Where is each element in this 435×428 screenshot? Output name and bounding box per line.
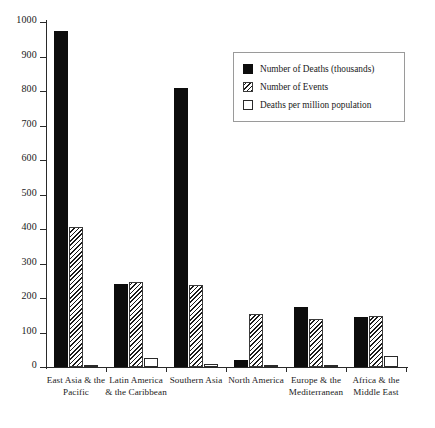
bar xyxy=(234,360,249,367)
y-axis-tick-mark xyxy=(40,367,46,368)
bar xyxy=(144,358,159,367)
y-axis-tick: 500 xyxy=(0,195,46,196)
y-axis-tick-label: 500 xyxy=(21,187,37,198)
bar xyxy=(249,314,264,367)
bar xyxy=(114,284,129,367)
bar xyxy=(84,365,99,367)
bar-group xyxy=(54,22,99,367)
bar xyxy=(69,227,84,367)
bar xyxy=(309,319,324,367)
bar-group xyxy=(174,22,219,367)
x-axis-separator xyxy=(346,367,347,372)
bar xyxy=(264,365,279,367)
x-axis-separator xyxy=(226,367,227,372)
y-axis-tick-label: 600 xyxy=(21,152,37,163)
legend-label: Number of Deaths (thousands) xyxy=(260,64,374,75)
bar xyxy=(354,317,369,367)
y-axis-tick-label: 100 xyxy=(21,325,37,336)
y-axis-tick-label: 400 xyxy=(21,221,37,232)
legend-swatch-icon xyxy=(243,82,253,92)
y-axis-tick: 900 xyxy=(0,57,46,58)
bar xyxy=(54,31,69,367)
category-label-line: & the Caribbean xyxy=(98,387,174,399)
bar xyxy=(189,285,204,367)
y-axis-tick-label: 300 xyxy=(21,256,37,267)
bar xyxy=(294,307,309,367)
y-axis-tick: 200 xyxy=(0,298,46,299)
legend-swatch-icon xyxy=(243,64,253,74)
y-axis-tick-label: 200 xyxy=(21,290,37,301)
y-axis-tick: 400 xyxy=(0,229,46,230)
bar xyxy=(369,316,384,367)
legend-item: Number of Deaths (thousands) xyxy=(243,60,396,78)
y-axis-tick: 700 xyxy=(0,126,46,127)
y-axis-tick: 300 xyxy=(0,264,46,265)
bar-chart: 01002003004005006007008009001000 East As… xyxy=(0,0,435,428)
chart-legend: Number of Deaths (thousands)Number of Ev… xyxy=(233,52,405,122)
x-axis-separator xyxy=(166,367,167,372)
x-axis-separator xyxy=(106,367,107,372)
x-axis-category-label: Africa & theMiddle East xyxy=(338,375,414,398)
bar-group xyxy=(114,22,159,367)
legend-item: Deaths per million population xyxy=(243,96,396,114)
bar xyxy=(129,282,144,367)
y-axis-tick-label: 1000 xyxy=(16,14,37,25)
x-axis-separator xyxy=(406,367,407,372)
y-axis-tick-label: 900 xyxy=(21,49,37,60)
y-axis-tick: 100 xyxy=(0,333,46,334)
x-axis-line xyxy=(41,367,408,368)
y-axis-tick: 600 xyxy=(0,160,46,161)
category-label-line: Middle East xyxy=(338,387,414,399)
category-label-line: Africa & the xyxy=(338,375,414,387)
bar xyxy=(324,365,339,367)
legend-item: Number of Events xyxy=(243,78,396,96)
bar xyxy=(174,88,189,367)
y-axis-tick-label: 0 xyxy=(32,359,37,370)
bar xyxy=(384,356,399,367)
y-axis-tick-label: 700 xyxy=(21,118,37,129)
legend-swatch-icon xyxy=(243,100,253,110)
y-axis-tick: 800 xyxy=(0,91,46,92)
y-axis-tick: 0 xyxy=(0,367,46,368)
y-axis-tick: 1000 xyxy=(0,22,46,23)
y-axis-tick-label: 800 xyxy=(21,83,37,94)
x-axis-separator xyxy=(286,367,287,372)
legend-label: Deaths per million population xyxy=(260,100,371,111)
bar xyxy=(204,364,219,367)
legend-label: Number of Events xyxy=(260,82,328,93)
